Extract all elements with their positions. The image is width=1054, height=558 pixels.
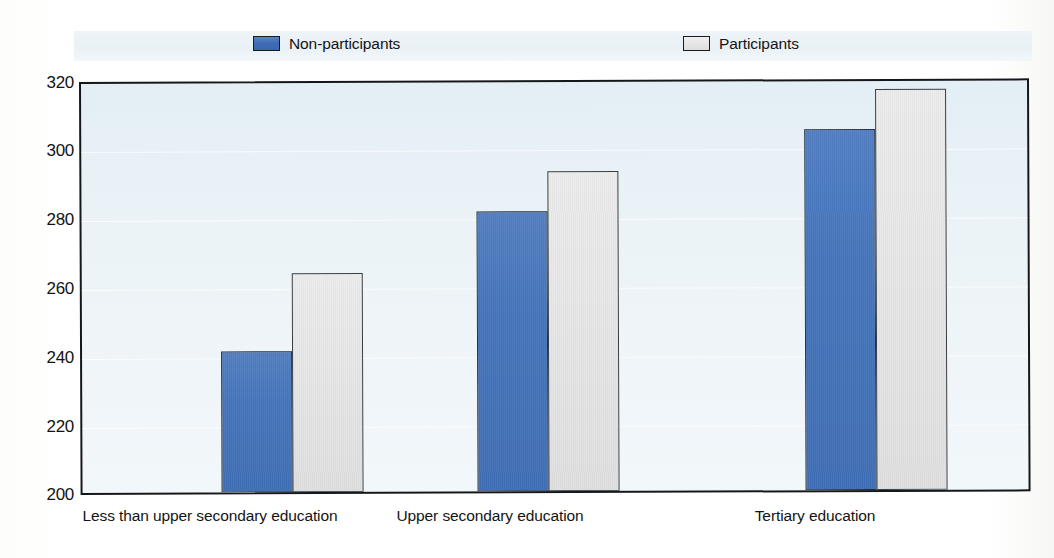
legend-label-participants: Participants: [719, 36, 799, 52]
legend-label-non-participants: Non-participants: [289, 36, 400, 52]
y-axis-tick-300: 300: [16, 142, 74, 159]
x-axis-label-less-than-upper-secondary: Less than upper secondary education: [75, 508, 345, 524]
plot-wrapper: [79, 82, 1029, 495]
y-axis-tick-260: 260: [16, 280, 74, 297]
bar-non-participants-tertiary: [804, 129, 876, 490]
y-axis-tick-240: 240: [16, 349, 74, 366]
bar-participants-less-than-upper-secondary: [292, 273, 364, 492]
y-axis-tick-220: 220: [16, 418, 74, 435]
x-axis-label-upper-secondary: Upper secondary education: [355, 508, 625, 524]
plot-area: [79, 78, 1031, 495]
bar-participants-upper-secondary: [547, 171, 619, 491]
bar-non-participants-upper-secondary: [477, 211, 549, 491]
y-axis-tick-200: 200: [16, 486, 74, 503]
legend-item-participants: Participants: [683, 36, 799, 52]
legend-background-band: [74, 31, 1032, 61]
legend-item-non-participants: Non-participants: [253, 36, 400, 52]
bar-non-participants-less-than-upper-secondary: [221, 351, 293, 492]
y-axis-tick-320: 320: [16, 74, 74, 91]
legend-swatch-non-participants-icon: [253, 36, 280, 51]
y-axis-tick-280: 280: [16, 211, 74, 228]
x-axis-label-tertiary: Tertiary education: [695, 508, 935, 524]
chart-page: Non-participants Participants 320 300 28…: [0, 0, 1054, 558]
legend-swatch-participants-icon: [683, 36, 710, 51]
bar-participants-tertiary: [875, 89, 948, 490]
